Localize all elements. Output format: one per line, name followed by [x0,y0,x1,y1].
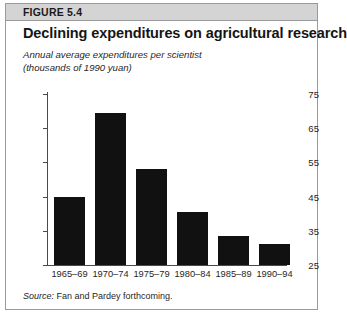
x-axis-tick-label: 1990–94 [251,269,299,279]
bar-1975–79 [136,169,167,265]
bar-chart-plot: 2535455565751965–691970–741975–791980–84… [6,4,319,311]
bar-1970–74 [95,113,126,265]
bar-1985–89 [218,236,249,265]
source-text: Fan and Pardey forthcoming. [54,291,173,301]
y-axis-tick-label: 45 [291,191,319,202]
y-axis-tick-label: 65 [291,123,319,134]
y-axis-tick-mark [43,94,47,95]
y-axis-line [47,92,48,266]
y-axis-tick-mark [43,231,47,232]
y-axis-tick-mark [43,197,47,198]
y-axis-tick-mark [43,128,47,129]
y-axis-tick-label: 35 [291,225,319,236]
y-axis-tick-label: 55 [291,157,319,168]
bar-1990–94 [259,244,290,265]
figure-source: Source: Fan and Pardey forthcoming. [23,291,173,301]
bar-1980–84 [177,212,208,265]
bar-1965–69 [54,197,85,265]
source-label: Source: [23,291,54,301]
x-axis-line [47,265,287,266]
y-axis-tick-mark [43,265,47,266]
y-axis-tick-mark [43,162,47,163]
figure-box: FIGURE 5.4 Declining expenditures on agr… [5,3,318,310]
y-axis-tick-label: 75 [291,89,319,100]
